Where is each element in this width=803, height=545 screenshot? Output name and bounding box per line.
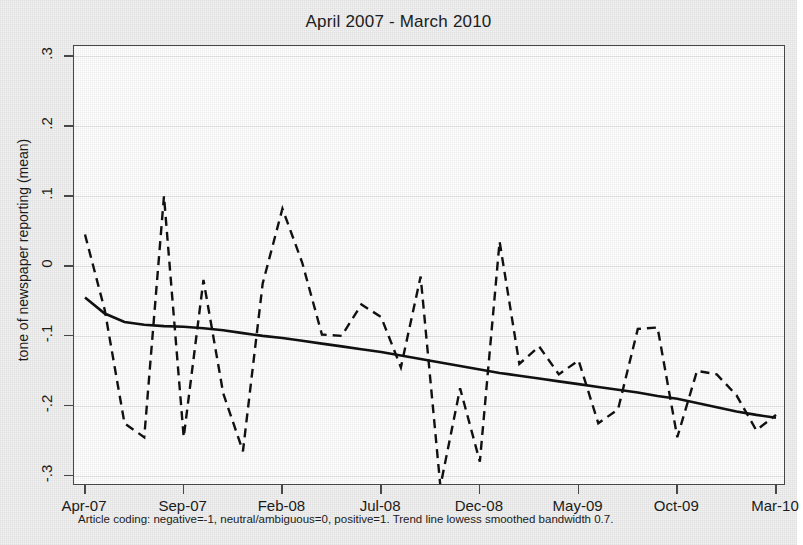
chart-footnote: Article coding: negative=-1, neutral/amb… (78, 513, 613, 525)
x-axis-tick-mark (84, 485, 86, 494)
x-axis-tick-label: Sep-07 (138, 497, 228, 514)
x-axis-tick-mark (183, 485, 185, 494)
y-axis-tick-mark (64, 265, 73, 267)
x-axis-tick-label: Apr-07 (39, 497, 129, 514)
x-axis-tick-label: Dec-08 (434, 497, 524, 514)
y-axis-tick-mark (64, 335, 73, 337)
y-axis-tick-mark (64, 125, 73, 127)
x-axis-tick-mark (775, 485, 777, 494)
x-axis-tick-label: Oct-09 (631, 497, 721, 514)
x-axis-tick-mark (281, 485, 283, 494)
x-axis-tick-mark (676, 485, 678, 494)
y-axis-tick-label: -.3 (38, 453, 55, 493)
x-axis-tick-mark (479, 485, 481, 494)
y-axis-tick-label: .2 (38, 104, 55, 144)
x-axis-tick-mark (578, 485, 580, 494)
y-axis-tick-mark (64, 475, 73, 477)
page-title: April 2007 - March 2010 (0, 12, 797, 32)
monthly-tone-line (85, 196, 776, 485)
y-axis-tick-label: .3 (38, 34, 55, 74)
x-axis-tick-label: May-09 (533, 497, 623, 514)
x-axis-tick-label: Jul-08 (335, 497, 425, 514)
y-axis-title: tone of newspaper reporting (mean) (15, 85, 31, 415)
y-axis-tick-label: .1 (38, 174, 55, 214)
y-axis-tick-label: -.2 (38, 383, 55, 423)
plot-svg (74, 46, 785, 485)
y-axis-tick-label: 0 (38, 244, 55, 284)
y-axis-tick-mark (64, 405, 73, 407)
y-axis-tick-mark (64, 55, 73, 57)
x-axis-tick-mark (380, 485, 382, 494)
y-axis-tick-label: -.1 (38, 313, 55, 353)
x-axis-tick-label: Feb-08 (236, 497, 326, 514)
x-axis-tick-label: Mar-10 (730, 497, 803, 514)
plot-area (73, 45, 785, 485)
y-axis-tick-mark (64, 195, 73, 197)
